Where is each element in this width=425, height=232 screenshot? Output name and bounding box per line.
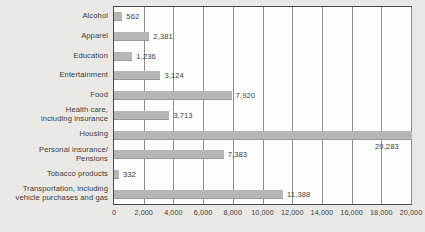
category-label: Health care,including insurance [0, 105, 108, 123]
category-label: Food [0, 90, 108, 99]
bar[interactable] [114, 170, 119, 179]
bar-value-label: 3,713 [173, 111, 193, 120]
bar[interactable] [114, 71, 160, 80]
bar[interactable] [114, 52, 132, 61]
bar[interactable] [114, 32, 149, 41]
category-label: Alcohol [0, 11, 108, 20]
category-label: Transportation, includingvehicle purchas… [0, 184, 108, 202]
bar[interactable] [114, 91, 232, 100]
gridline [322, 7, 323, 204]
category-label-line: Food [90, 90, 108, 99]
category-label-line: Health care, [66, 105, 108, 114]
category-label-line: Apparel [81, 31, 108, 40]
bar-value-label: 332 [123, 170, 136, 179]
category-label-line: Pensions [76, 154, 108, 163]
bar-value-label: 1,236 [136, 52, 156, 61]
category-label-line: Alcohol [82, 11, 108, 20]
category-label-line: Personal insurance/ [39, 145, 108, 154]
bar-value-label: 20,283 [375, 142, 399, 151]
category-axis-labels: AlcoholApparelEducationEntertainmentFood… [0, 6, 108, 205]
x-tick-label: 4,000 [164, 208, 183, 218]
category-label: Tobacco products [0, 169, 108, 178]
x-tick-label: 18,000 [370, 208, 393, 218]
bar[interactable] [114, 150, 224, 159]
category-label-line: including insurance [41, 114, 108, 123]
category-label-line: Entertainment [59, 70, 108, 79]
bar-value-label: 11,388 [287, 190, 310, 199]
gridline [173, 7, 174, 204]
gridline [352, 7, 353, 204]
x-axis-tick-labels: 02,0004,0006,0008,00010,00012,00014,0001… [113, 208, 412, 222]
x-tick-label: 16,000 [340, 208, 363, 218]
category-label-line: vehicle purchases and gas [16, 193, 108, 202]
category-label: Personal insurance/Pensions [0, 145, 108, 163]
bar[interactable] [114, 111, 169, 120]
gridline [292, 7, 293, 204]
category-label: Apparel [0, 31, 108, 40]
bar-value-label: 3,124 [164, 71, 184, 80]
category-label: Housing [0, 129, 108, 138]
bar-value-label: 7,920 [236, 91, 256, 100]
bar[interactable] [114, 131, 412, 140]
x-tick-label: 10,000 [251, 208, 274, 218]
bar[interactable] [114, 190, 283, 199]
x-tick-label: 8,000 [224, 208, 243, 218]
category-label-line: Housing [79, 129, 108, 138]
category-label-line: Tobacco products [47, 169, 108, 178]
gridline [381, 7, 382, 204]
gridline [411, 7, 412, 204]
x-tick-label: 12,000 [281, 208, 304, 218]
x-tick-label: 20,000 [400, 208, 423, 218]
gridline [233, 7, 234, 204]
x-tick-label: 14,000 [311, 208, 334, 218]
bar-value-label: 562 [126, 12, 139, 21]
category-label: Education [0, 51, 108, 60]
x-tick-label: 6,000 [194, 208, 213, 218]
x-tick-label: 0 [112, 208, 116, 218]
plot-area: 5622,3811,2363,1247,9203,71320,2837,3833… [113, 6, 412, 205]
x-tick-label: 2,000 [134, 208, 153, 218]
category-label-line: Transportation, including [23, 184, 108, 193]
category-label-line: Education [73, 51, 108, 60]
bar-value-label: 2,381 [153, 32, 173, 41]
bar[interactable] [114, 12, 122, 21]
category-label: Entertainment [0, 70, 108, 79]
gridline [203, 7, 204, 204]
bar-chart: AlcoholApparelEducationEntertainmentFood… [0, 0, 425, 232]
gridline [263, 7, 264, 204]
bar-value-label: 7,383 [228, 150, 248, 159]
